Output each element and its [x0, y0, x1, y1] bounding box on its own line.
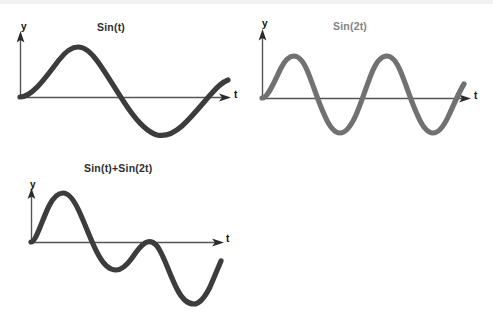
- x-axis-label-sin-2t: t: [474, 91, 477, 101]
- panel-sin-2t: Sin(2t) y t: [248, 0, 493, 158]
- panel-title-sin-t: Sin(t): [97, 22, 125, 33]
- plot-area-sin-2t: [248, 0, 493, 158]
- x-axis-label-sin-t: t: [234, 90, 237, 100]
- y-axis-label-sin-t-plus-sin-2t: y: [30, 180, 36, 190]
- plot-area-sin-t-plus-sin-2t: [0, 158, 250, 318]
- y-axis-label-sin-2t: y: [262, 19, 268, 29]
- curve-sin-2t: [262, 56, 464, 133]
- panel-sin-t: Sin(t) y t: [0, 0, 248, 158]
- x-axis-label-sin-t-plus-sin-2t: t: [226, 234, 229, 244]
- panel-title-sin-2t: Sin(2t): [333, 21, 367, 32]
- panel-title-sin-t-plus-sin-2t: Sin(t)+Sin(2t): [84, 163, 152, 174]
- curve-sin-t: [20, 47, 228, 136]
- curve-sin-t-plus-sin-2t: [31, 193, 221, 304]
- panel-sin-t-plus-sin-2t: Sin(t)+Sin(2t) y t: [0, 158, 250, 318]
- figure-canvas: Sin(t) y t Sin(2t) y t: [0, 0, 493, 318]
- y-axis-label-sin-t: y: [21, 22, 27, 32]
